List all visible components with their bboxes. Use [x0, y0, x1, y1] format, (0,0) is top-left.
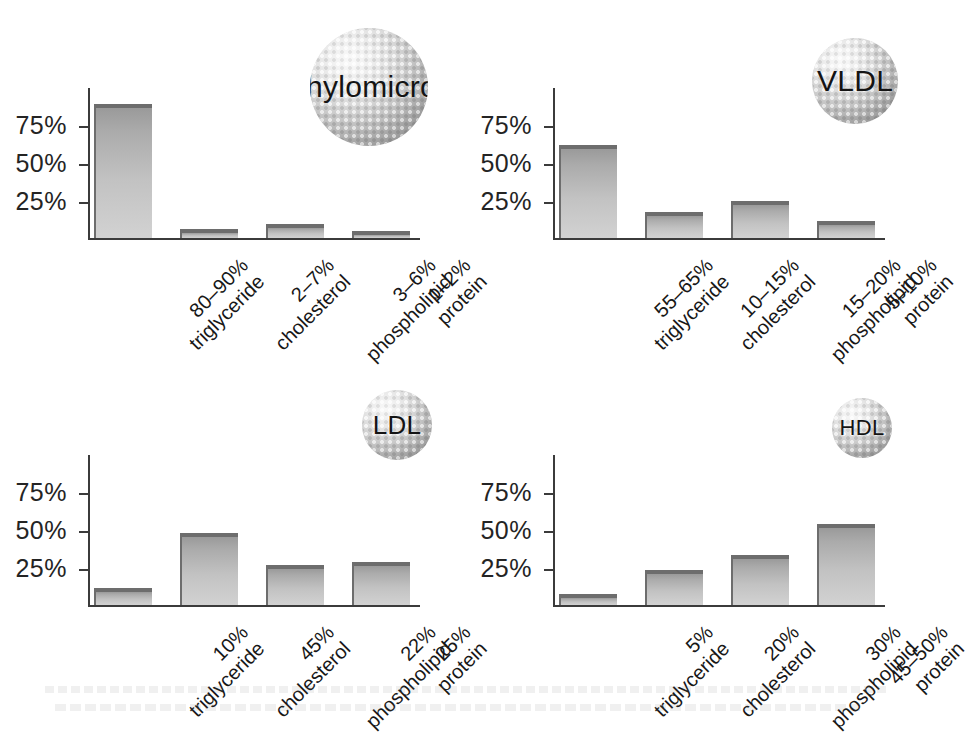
panel-vldl: 75% 50% 25% [465, 0, 931, 367]
sphere-label: VLDL [817, 64, 893, 98]
x-axis-line [88, 605, 420, 607]
bar-protein [352, 562, 410, 605]
bar-phospholipid [731, 201, 789, 238]
bar-cholesterol [645, 212, 703, 238]
y-tick-label-25: 25% [480, 187, 532, 216]
y-tick-25: 25% [544, 569, 554, 571]
y-tick-50: 50% [79, 164, 89, 166]
bar-protein [817, 221, 875, 238]
sphere-label: HDL [840, 415, 885, 441]
x-axis-line [553, 238, 885, 240]
x-label-cholesterol: 20% cholesterol [719, 621, 819, 721]
y-tick-label-75: 75% [15, 478, 67, 507]
y-tick-75: 75% [544, 126, 554, 128]
y-tick-25: 25% [544, 202, 554, 204]
y-tick-label-50: 50% [480, 149, 532, 178]
y-tick-label-75: 75% [480, 478, 532, 507]
plot-area-ldl: 75% 50% 25% [88, 455, 420, 607]
y-tick-label-25: 25% [15, 554, 67, 583]
particle-sphere-vldl: VLDL [812, 38, 898, 124]
y-tick-label-75: 75% [15, 111, 67, 140]
x-label-cholesterol: 45% cholesterol [254, 621, 354, 721]
x-label-triglyceride: 5% triglyceride [633, 621, 733, 721]
bar-protein [352, 231, 410, 238]
bar-triglyceride [559, 594, 617, 605]
y-tick-75: 75% [79, 126, 89, 128]
sphere-label: Chylomicron [310, 70, 428, 104]
bar-phospholipid [266, 565, 324, 605]
panel-hdl: 75% 50% 25% [465, 367, 931, 734]
x-axis-line [553, 605, 885, 607]
particle-sphere-chylomicron: Chylomicron [310, 28, 428, 146]
bar-cholesterol [645, 570, 703, 605]
bar-cholesterol [180, 229, 238, 238]
x-label-cholesterol: 2–7% cholesterol [254, 254, 354, 354]
particle-sphere-hdl: HDL [832, 398, 892, 458]
y-tick-50: 50% [544, 164, 554, 166]
particle-sphere-ldl: LDL [362, 390, 432, 460]
x-label-triglyceride: 80–90% triglyceride [168, 254, 268, 354]
y-tick-25: 25% [79, 202, 89, 204]
x-label-triglyceride: 10% triglyceride [168, 621, 268, 721]
y-tick-label-50: 50% [480, 516, 532, 545]
bar-triglyceride [94, 588, 152, 605]
y-tick-label-75: 75% [480, 111, 532, 140]
y-tick-50: 50% [544, 531, 554, 533]
bar-protein [817, 524, 875, 605]
y-tick-75: 75% [79, 493, 89, 495]
bar-phospholipid [266, 224, 324, 238]
x-axis-line [88, 238, 420, 240]
bar-triglyceride [94, 104, 152, 238]
y-tick-label-50: 50% [15, 516, 67, 545]
x-label-cholesterol: 10–15% cholesterol [719, 254, 819, 354]
y-tick-50: 50% [79, 531, 89, 533]
plot-area-hdl: 75% 50% 25% [553, 455, 885, 607]
bar-triglyceride [559, 145, 617, 238]
y-tick-label-50: 50% [15, 149, 67, 178]
sphere-label: LDL [373, 410, 422, 441]
bar-cholesterol [180, 533, 238, 605]
bar-phospholipid [731, 555, 789, 605]
y-tick-75: 75% [544, 493, 554, 495]
x-label-triglyceride: 55–65% triglyceride [633, 254, 733, 354]
y-tick-25: 25% [79, 569, 89, 571]
panel-ldl: 75% 50% 25% [0, 367, 466, 734]
y-tick-label-25: 25% [480, 554, 532, 583]
panel-chylomicron: 75% 50% 25% [0, 0, 466, 367]
y-tick-label-25: 25% [15, 187, 67, 216]
